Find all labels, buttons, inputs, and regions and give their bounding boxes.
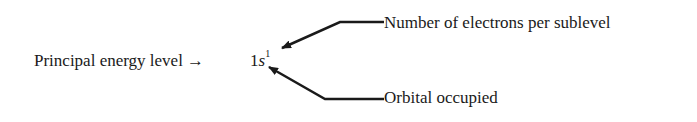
orbital-occupied-label: Orbital occupied	[384, 89, 498, 106]
electron-notation-diagram: Principal energy level → 1s1 Number of e…	[0, 0, 697, 122]
electrons-arrow	[282, 22, 384, 48]
electrons-per-sublevel-label: Number of electrons per sublevel	[384, 14, 611, 31]
orbital-arrow	[269, 67, 384, 99]
